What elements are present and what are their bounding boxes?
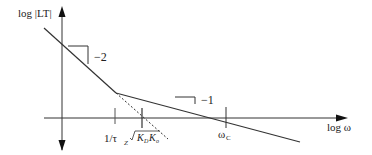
- svg-text:ω: ω: [218, 128, 225, 140]
- svg-text:1/τ: 1/τ: [104, 132, 118, 144]
- slope-triangle-shallow: [175, 97, 195, 104]
- x-axis-label: log ω: [327, 121, 351, 133]
- zero-freq-label: 1/τ Z: [104, 132, 128, 147]
- crossover-label: ω C: [218, 128, 231, 142]
- bode-plot-svg: log |LT| −2 −1 log ω 1/τ Z K D K o ω C: [0, 0, 372, 155]
- svg-text:Z: Z: [124, 139, 128, 147]
- y-axis-label: log |LT|: [18, 7, 52, 19]
- slope-label-shallow: −1: [201, 93, 214, 107]
- slope-label-steep: −2: [94, 50, 107, 64]
- bode-plot-diagram: log |LT| −2 −1 log ω 1/τ Z K D K o ω C: [0, 0, 372, 155]
- y-axis-down-arrow-icon: [59, 140, 66, 151]
- y-axis-up-arrow-icon: [59, 6, 66, 17]
- sqrt-gain-label: K D K o: [130, 131, 160, 144]
- x-axis: [44, 115, 348, 122]
- y-axis: [59, 6, 66, 151]
- svg-text:C: C: [226, 134, 231, 142]
- slope-triangle-steep: [68, 46, 88, 64]
- svg-text:o: o: [156, 138, 159, 144]
